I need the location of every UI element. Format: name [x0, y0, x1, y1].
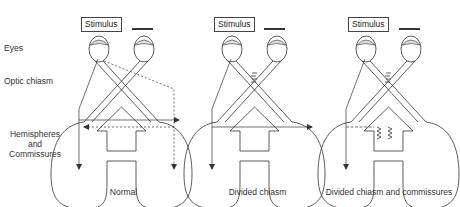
- caption-divided-chiasm: Divided chiasm: [205, 187, 310, 197]
- caption-divided-both: Divided chiasm and commissures: [318, 187, 460, 197]
- brain-diagrams: [0, 0, 460, 207]
- panel-normal: [51, 36, 192, 207]
- panel-divided-both: [318, 36, 459, 207]
- caption-normal: Normal: [71, 187, 176, 197]
- panel-divided-chiasm: [184, 36, 325, 207]
